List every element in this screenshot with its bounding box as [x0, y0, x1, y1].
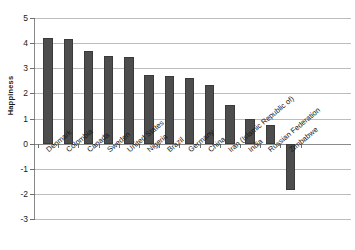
- y-tick-label: -2: [4, 190, 28, 199]
- y-tick-label: -3: [4, 215, 28, 224]
- y-tick-label: 2: [4, 89, 28, 98]
- y-tick-label: 5: [4, 14, 28, 23]
- happiness-bar-chart: Happiness 543210-1-2-3 DenmarkColombiaCa…: [0, 0, 355, 250]
- gridline: [35, 43, 351, 44]
- bar: [185, 78, 195, 143]
- bar: [43, 38, 53, 144]
- gridline: [35, 219, 351, 220]
- gridline: [35, 18, 351, 19]
- y-tick-label: 0: [4, 140, 28, 149]
- gridline: [35, 194, 351, 195]
- y-tick-label: 4: [4, 39, 28, 48]
- y-tick-label: 3: [4, 64, 28, 73]
- gridline: [35, 169, 351, 170]
- x-tick-mark: [38, 144, 39, 148]
- bar: [165, 76, 175, 144]
- bar: [225, 105, 235, 144]
- y-tick-label: 1: [4, 115, 28, 124]
- gridline: [35, 68, 351, 69]
- y-tick-label: -1: [4, 165, 28, 174]
